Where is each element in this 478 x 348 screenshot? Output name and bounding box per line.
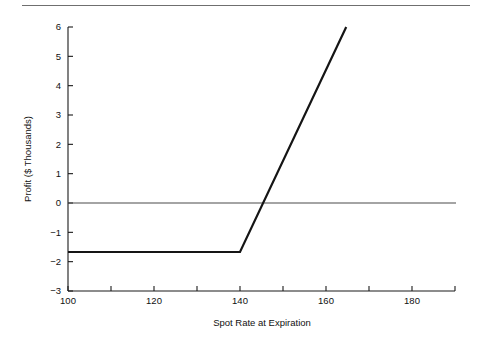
profit-line-series	[68, 27, 346, 252]
profit-diagram-chart: −3−2−10123456 100120140160180 Spot Rate …	[0, 0, 478, 348]
y-tick-label--1: −1	[50, 227, 61, 238]
x-tick-label-120: 120	[146, 295, 162, 306]
y-tick-label-0: 0	[56, 197, 61, 208]
y-tick-label--2: −2	[50, 256, 61, 267]
y-tick-label-5: 5	[56, 51, 61, 62]
x-tick-label-180: 180	[404, 295, 420, 306]
y-tick-label-3: 3	[56, 109, 61, 120]
y-tick-label-6: 6	[56, 21, 61, 32]
x-axis-title: Spot Rate at Expiration	[213, 317, 311, 328]
x-tick-label-100: 100	[60, 295, 76, 306]
y-tick-label-1: 1	[56, 168, 61, 179]
figure-panel: −3−2−10123456 100120140160180 Spot Rate …	[0, 0, 478, 348]
y-axis-title: Profit ($ Thousands)	[22, 116, 33, 202]
series-path-0	[68, 27, 346, 252]
y-axis: −3−2−10123456	[50, 21, 73, 296]
y-tick-label-4: 4	[56, 80, 61, 91]
y-tick-label-2: 2	[56, 139, 61, 150]
x-axis: 100120140160180	[60, 286, 455, 306]
x-tick-label-160: 160	[318, 295, 334, 306]
x-tick-label-140: 140	[232, 295, 248, 306]
